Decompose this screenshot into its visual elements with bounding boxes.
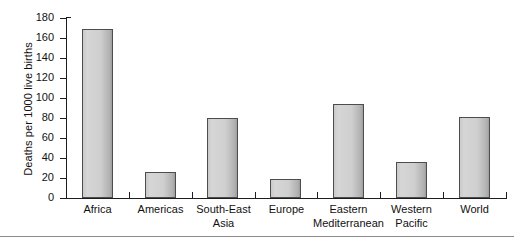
y-axis-tick-label: 40 — [8, 151, 54, 163]
y-axis-tick-label: 140 — [8, 51, 54, 63]
y-axis-tick-label: 0 — [8, 191, 54, 203]
y-axis-tick — [60, 78, 66, 79]
y-axis-tick-label: 20 — [8, 171, 54, 183]
bar-americas — [145, 172, 176, 198]
x-axis-tick — [255, 192, 256, 198]
bar-chart-figure: Deaths per 1000 live births 020406080100… — [0, 0, 514, 247]
bar-europe — [270, 179, 301, 198]
x-axis-category-world: World — [431, 203, 514, 217]
bar-world — [459, 117, 490, 198]
x-axis-tick — [443, 192, 444, 198]
x-axis-tick — [192, 192, 193, 198]
x-axis-category-line: Asia — [180, 217, 267, 231]
y-axis-tick-label: 160 — [8, 31, 54, 43]
y-axis-tick — [60, 178, 66, 179]
y-axis-tick-label: 80 — [8, 111, 54, 123]
bar-eastern-mediterranean — [333, 104, 364, 198]
y-axis-top-cap — [66, 17, 71, 18]
x-axis-tick — [317, 192, 318, 198]
y-axis-line — [66, 17, 67, 199]
x-axis-line — [66, 198, 507, 199]
y-axis-tick — [60, 118, 66, 119]
y-axis-tick-label: 120 — [8, 71, 54, 83]
y-axis-tick-label: 60 — [8, 131, 54, 143]
bar-south-east-asia — [207, 118, 238, 198]
y-axis-tick-label: 180 — [8, 11, 54, 23]
bar-africa — [82, 29, 113, 198]
y-axis-tick — [60, 38, 66, 39]
y-axis-tick — [60, 18, 66, 19]
y-axis-tick — [60, 98, 66, 99]
y-axis-tick — [60, 138, 66, 139]
x-axis-end-cap — [506, 192, 507, 199]
x-axis-tick — [380, 192, 381, 198]
x-axis-category-line: Pacific — [368, 217, 455, 231]
y-axis-tick — [60, 198, 66, 199]
x-axis-tick — [129, 192, 130, 198]
y-axis-tick — [60, 158, 66, 159]
y-axis-tick — [60, 58, 66, 59]
bar-western-pacific — [396, 162, 427, 198]
y-axis-tick-label: 100 — [8, 91, 54, 103]
bottom-divider — [0, 236, 514, 237]
x-axis-category-line: World — [431, 203, 514, 217]
